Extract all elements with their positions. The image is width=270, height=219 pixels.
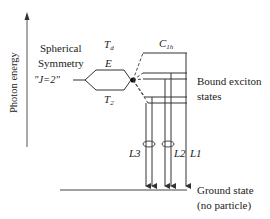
spherical-symmetry-label: Spherical Symmetry: [38, 42, 84, 69]
bound-line1: Bound exciton: [197, 75, 261, 87]
l2-group-ellipse: [162, 141, 174, 147]
photon-energy-label: Photon energy: [8, 52, 19, 113]
bound-exciton-label: Bound exciton states: [197, 75, 261, 102]
l3-label: L3: [129, 147, 141, 159]
td-label: Td: [104, 38, 114, 54]
ground-state-label: Ground state (no particle): [197, 184, 254, 211]
c1h-splitting-dashes: [133, 53, 148, 103]
c1h-label: C1h: [159, 37, 173, 53]
e-level-label: E: [105, 57, 112, 69]
l2-label: L2: [174, 147, 186, 159]
bound-line2: states: [197, 90, 261, 102]
spherical-line1: Spherical: [38, 42, 84, 54]
l1-label: L1: [190, 147, 202, 159]
j2-label: "J=2": [34, 74, 60, 86]
spherical-line2: Symmetry: [38, 57, 84, 69]
ground-line2: (no particle): [197, 199, 254, 211]
l3-group-ellipse: [143, 141, 155, 147]
td-splitting: [85, 70, 131, 90]
photon-energy-axis: [25, 12, 30, 147]
ground-line1: Ground state: [197, 184, 254, 196]
t2-label: T2: [104, 93, 114, 109]
